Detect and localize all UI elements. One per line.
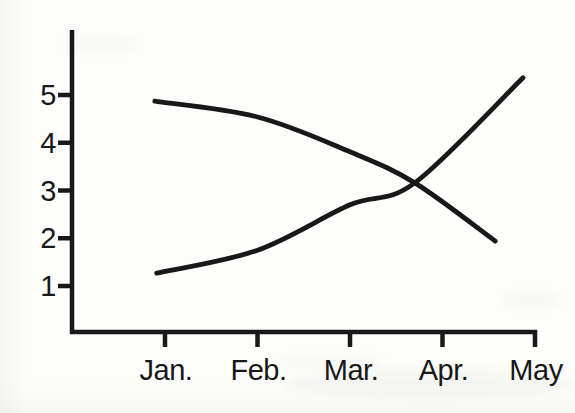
y-tick-label: 1 [40, 270, 56, 302]
y-tick-label: 2 [40, 222, 56, 254]
y-tick-label: 5 [40, 79, 56, 111]
y-tick-label: 3 [40, 175, 56, 207]
x-tick-label: Apr. [419, 354, 469, 386]
x-tick-label: May [509, 354, 563, 386]
chart-canvas: 12345Jan.Feb.Mar.Apr.May [0, 0, 575, 413]
series-declining-curve-path [155, 101, 495, 241]
x-tick-label: Feb. [230, 354, 286, 386]
scanned-figure-page: 12345Jan.Feb.Mar.Apr.May [0, 0, 575, 413]
x-tick-label: Mar. [324, 354, 378, 386]
paper-smudge [500, 291, 560, 309]
plot-area: 12345Jan.Feb.Mar.Apr.May [40, 30, 563, 386]
y-tick-label: 4 [40, 127, 56, 159]
paper-smudges [60, 37, 575, 398]
x-tick-label: Jan. [140, 354, 193, 386]
axis-spines [72, 30, 537, 332]
